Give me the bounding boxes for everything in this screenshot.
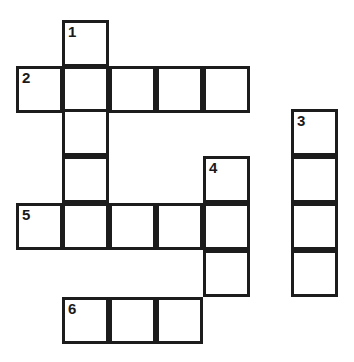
crossword-cell[interactable] <box>291 250 338 297</box>
crossword-cell[interactable] <box>203 66 250 113</box>
crossword-cell[interactable]: 4 <box>203 156 250 203</box>
crossword-puzzle: 123456 <box>0 0 354 362</box>
crossword-cell[interactable] <box>109 66 156 113</box>
crossword-cell[interactable]: 3 <box>291 109 338 156</box>
crossword-cell[interactable]: 1 <box>62 20 109 67</box>
crossword-cell[interactable] <box>62 109 109 156</box>
crossword-cell[interactable] <box>109 297 156 344</box>
crossword-cell[interactable] <box>291 203 338 250</box>
cell-number-1: 1 <box>68 23 76 40</box>
crossword-cell[interactable] <box>291 156 338 203</box>
crossword-cell[interactable] <box>203 250 250 297</box>
crossword-cell[interactable] <box>156 66 203 113</box>
cell-number-4: 4 <box>209 159 217 176</box>
cell-number-6: 6 <box>68 300 76 317</box>
crossword-cell[interactable]: 2 <box>16 66 63 113</box>
crossword-cell[interactable] <box>109 203 156 250</box>
crossword-cell[interactable] <box>156 203 203 250</box>
crossword-grid: 123456 <box>0 0 354 362</box>
crossword-cell[interactable] <box>62 66 109 113</box>
crossword-cell[interactable] <box>62 203 109 250</box>
cell-number-5: 5 <box>22 206 30 223</box>
crossword-cell[interactable] <box>156 297 203 344</box>
crossword-cell[interactable] <box>62 156 109 203</box>
cell-number-3: 3 <box>297 112 305 129</box>
crossword-cell[interactable]: 5 <box>16 203 63 250</box>
cell-number-2: 2 <box>22 69 30 86</box>
crossword-cell[interactable]: 6 <box>62 297 109 344</box>
crossword-cell[interactable] <box>203 203 250 250</box>
